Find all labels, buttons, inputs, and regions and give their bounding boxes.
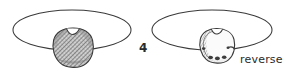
- reverse-caption: reverse: [240, 54, 283, 65]
- reverse-coin: [197, 25, 239, 67]
- obverse-coin: [50, 25, 98, 71]
- obverse-panel: [13, 10, 131, 71]
- reverse-mark-4: [202, 47, 205, 50]
- figure-number: 4: [139, 42, 147, 54]
- reverse-mark-5: [227, 47, 230, 49]
- figure-illustration: 4 reverse: [0, 0, 290, 72]
- reverse-mark-3: [222, 56, 227, 59]
- reverse-mark-1: [208, 56, 213, 59]
- reverse-mark-2: [215, 57, 220, 61]
